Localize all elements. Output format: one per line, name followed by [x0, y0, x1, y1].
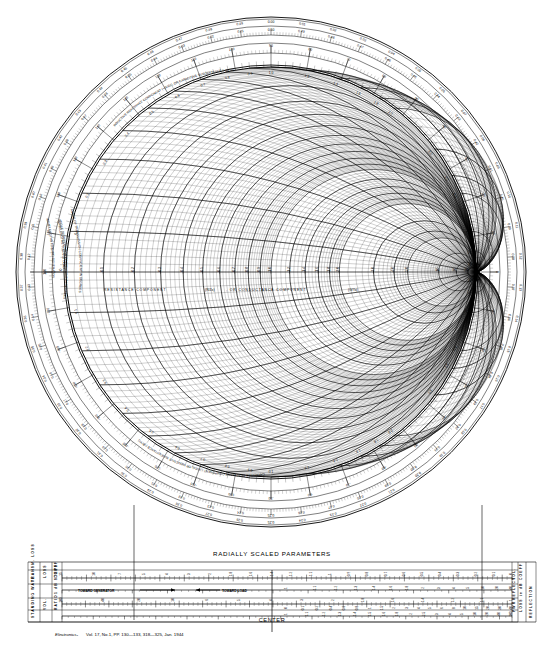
ring-number: 0.25: [268, 520, 275, 524]
resistance-axis-mid: , OR CONDUCTANCE COMPONENT: [226, 288, 306, 292]
scale-number: 1.2: [451, 598, 455, 603]
scale-number: 1.1: [480, 598, 484, 603]
ring-number: -160: [56, 345, 62, 353]
ring-number: 0.12: [518, 253, 522, 260]
reactance-tick-label: 1.6: [355, 448, 361, 454]
scale-number: 6: [205, 599, 209, 601]
ring-number: 130: [122, 95, 129, 102]
scale-number: 1.8: [229, 572, 233, 577]
scale-number: 3: [300, 599, 304, 601]
ring-number: 0.14: [30, 314, 35, 321]
direction-labels: TOWARD GENERATORTOWARD LOAD: [78, 588, 247, 593]
scale-number: 10: [92, 572, 96, 576]
ring-number: 180: [43, 269, 47, 275]
ring-number: 70: [346, 57, 351, 62]
resistance-axis-tick-label: 4.0: [391, 267, 395, 272]
ring-number: 0.28: [356, 494, 364, 500]
resistance-axis-ticks: 0.10.20.30.40.50.60.70.80.91.01.21.41.61…: [59, 267, 469, 274]
ring-number: 0.45: [120, 66, 128, 73]
ring-number: 0.40: [30, 191, 36, 199]
radially-scaled-parameters-title: RADIALLY SCALED PARAMETERS: [213, 550, 331, 557]
ring-number: 0.18: [460, 428, 467, 436]
reactance-tick-label: 0.7: [200, 82, 206, 87]
resistance-axis-tick-label: 1.2: [287, 267, 291, 272]
scale-number: 0.6: [402, 572, 406, 577]
ring-number: 0.06: [438, 86, 446, 94]
ring-number: 0.00: [268, 20, 275, 24]
scale-number: 5: [142, 573, 146, 575]
reactance-tick-label: 20: [467, 250, 471, 254]
scale-number: 0.1: [492, 572, 496, 577]
ring-number: 0.39: [23, 221, 28, 228]
scale-number: 1.4: [372, 586, 376, 591]
ring-number: 0.29: [147, 488, 155, 495]
ring-number: 0.24: [299, 518, 306, 523]
ring-number: 0.47: [356, 43, 364, 49]
ring-number: 0.38: [19, 253, 23, 260]
ring-number: 0.36: [507, 314, 512, 321]
scale-ticks: [62, 575, 512, 578]
reactance-tick-label: 0.9: [248, 72, 253, 76]
ring-number: 0.48: [205, 27, 212, 33]
resistance-axis-tick-label: 0.5: [200, 267, 204, 272]
right-side-labels: VOL.COEFFPWRLOSS in dBREFLECTREFLECTION: [512, 563, 534, 618]
reactance-tick-label: 20: [467, 290, 471, 294]
ring-number: -120: [154, 464, 162, 471]
resistance-axis-tick-label: 0.6: [217, 267, 221, 272]
scale-number: 4: [448, 613, 452, 615]
ring-number: -90: [268, 496, 273, 500]
outer-ring-captions: ANGLE OF REFLECTION COEFFICIENT IN DEGRE…: [45, 208, 83, 299]
scale-ticks: [62, 604, 512, 607]
scale-number: 15: [59, 572, 63, 576]
resistance-axis-caption: RESISTANCE COMPONENT (R/Zo) , OR CONDUCT…: [104, 288, 358, 292]
scale-number: 3: [435, 613, 439, 615]
left-side-labels: TRANSM. LOSSLOSSCOEFFSTANDING WAVEVOL.RA…: [31, 543, 58, 618]
scale-number-row: 11.11.21.31.41.61.82345102040: [284, 586, 513, 591]
curved-interior-labels: INDUCTIVE REACTANCE COMPONENT (+jX/Zo), …: [112, 68, 265, 478]
ring-number: 0.13: [518, 284, 522, 291]
scale-number: 2: [409, 613, 413, 615]
resistance-axis-tick-label: 0: [59, 268, 63, 270]
ring-number: 0.48: [328, 34, 335, 40]
scale-number: 5: [428, 607, 432, 609]
scale-number: 1.1: [305, 612, 309, 617]
scale-number: 0.3: [456, 572, 460, 577]
ring-number: -170: [46, 307, 51, 314]
scale-number: 0.4: [329, 606, 333, 611]
scale-number-row: 1510754321.81.61.41.21.110.90.80.70.60.5…: [59, 572, 513, 577]
ring-number: 0.07: [460, 109, 467, 117]
scale-number: 0.5: [420, 572, 424, 577]
scale-number: 5: [466, 587, 470, 589]
ring-number: 40: [441, 124, 447, 130]
scale-number: 1.2: [289, 572, 293, 577]
reactance-tick-label: 0.6: [174, 93, 180, 99]
reactance-tick-label: 1.0: [269, 469, 274, 473]
ring-number: 110: [190, 57, 197, 63]
scale-number: 0.4: [438, 572, 442, 577]
ring-number: 0.27: [328, 504, 335, 510]
footer-source-italic: Electronics-: [55, 632, 78, 637]
scale-number: 1.5: [380, 606, 384, 611]
resistance-axis-tick-label: 3.0: [371, 267, 375, 272]
scale-ticks: [62, 578, 512, 581]
ring-number: 0.01: [237, 29, 244, 34]
ring-number: 0.14: [514, 315, 519, 322]
ring-number: 0.31: [96, 450, 104, 458]
ring-number: -70: [345, 482, 351, 487]
ring-number: -10: [491, 308, 496, 314]
ring-number: 0.25: [268, 513, 275, 517]
reactance-tick-label: 1.4: [333, 458, 339, 463]
scale-number: 1: [328, 573, 332, 575]
ring-number: 0.10: [506, 191, 512, 199]
ring-number: 0.35: [30, 345, 36, 353]
ring-number: -100: [228, 492, 235, 497]
scale-number: 40: [101, 598, 105, 602]
ring-number: -60: [381, 465, 387, 471]
scale-number: 10: [481, 586, 485, 590]
scale-number: 4: [165, 573, 169, 575]
scale-number: 2: [392, 607, 396, 609]
scale-number: 0.6: [342, 606, 346, 611]
ring-number: 60: [381, 74, 386, 79]
scale-number: 0.7: [384, 572, 388, 577]
resistance-axis-tick-label: 0.2: [131, 267, 135, 272]
